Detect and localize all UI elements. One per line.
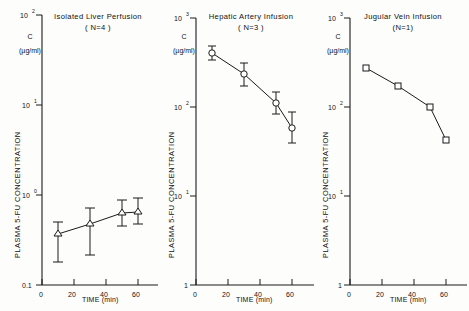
panel-1-ytick-0: 0.1	[22, 282, 32, 289]
panel-3-plot: 103 102 101 1 0 20 40 60	[312, 0, 469, 311]
panel-3-xtick-40: 40	[408, 291, 416, 298]
panel-3-y-ticks: 103 102 101 1	[328, 11, 350, 289]
panel-1-plot: 102 101 100 0.1 0 20 40 60	[0, 0, 160, 311]
panel-jugular-vein-infusion: Jugular Vein Infusion (N=1) C (µg/ml) PL…	[312, 0, 469, 311]
panel-1-x-ticks: 0 20 40 60	[39, 279, 140, 298]
panel-3-xtick-20: 20	[376, 291, 384, 298]
panel-3-xtick-60: 60	[440, 291, 448, 298]
panel-2-xtick-0: 0	[193, 291, 197, 298]
panel-1-ytick-3-exp: 2	[32, 8, 35, 14]
panel-2-ytick-2-exp: 2	[186, 100, 189, 106]
panel-2-series-line	[212, 53, 292, 128]
panel-3-ytick-1-exp: 1	[340, 189, 343, 195]
panel-3-markers	[363, 65, 449, 143]
panel-1-ytick-2-exp: 1	[34, 98, 37, 104]
panel-2-x-ticks: 0 20 40 60	[193, 279, 294, 298]
panel-2-ytick-3-exp: 3	[186, 11, 189, 17]
panel-2-ytick-1: 10	[174, 193, 182, 200]
panel-2-ytick-3: 10	[174, 15, 182, 22]
panel-2-plot: 103 102 101 1 0 20 40 60	[156, 0, 316, 311]
panel-1-xtick-60: 60	[132, 291, 140, 298]
panel-3-ytick-3: 10	[328, 15, 336, 22]
panel-2-xtick-20: 20	[222, 291, 230, 298]
panel-1-ytick-1-exp: 0	[34, 188, 37, 194]
figure-root: Isolated Liver Perfusion ( N=4 ) C (µg/m…	[0, 0, 469, 311]
panel-3-x-ticks: 0 20 40 60	[347, 279, 448, 298]
panel-1-y-ticks: 102 101 100 0.1	[20, 8, 42, 289]
panel-1-ytick-3: 10	[20, 12, 28, 19]
panel-isolated-liver-perfusion: Isolated Liver Perfusion ( N=4 ) C (µg/m…	[0, 0, 160, 311]
panel-2-y-ticks: 103 102 101 1	[174, 11, 196, 289]
panel-3-ytick-2: 10	[328, 104, 336, 111]
panel-2-xtick-40: 40	[254, 291, 262, 298]
panel-3-series-line	[366, 68, 446, 140]
panel-1-xtick-40: 40	[100, 291, 108, 298]
panel-1-xtick-0: 0	[39, 291, 43, 298]
panel-3-ytick-0: 1	[338, 282, 342, 289]
panel-3-ytick-2-exp: 2	[340, 100, 343, 106]
panel-3-ytick-1: 10	[328, 193, 336, 200]
panel-3-xtick-0: 0	[347, 291, 351, 298]
panel-2-ytick-2: 10	[174, 104, 182, 111]
panel-1-ytick-2: 10	[22, 102, 30, 109]
panel-2-ytick-1-exp: 1	[186, 189, 189, 195]
panel-1-error-bars	[53, 198, 143, 262]
panel-hepatic-artery-infusion: Hepatic Artery Infusion ( N=3 ) C (µg/ml…	[156, 0, 316, 311]
panel-2-markers	[209, 50, 295, 131]
panel-2-error-bars	[208, 46, 296, 143]
panel-2-xtick-60: 60	[286, 291, 294, 298]
panel-1-xtick-20: 20	[68, 291, 76, 298]
panel-3-ytick-3-exp: 3	[340, 11, 343, 17]
panel-1-ytick-1: 10	[22, 192, 30, 199]
panel-2-ytick-0: 1	[184, 282, 188, 289]
